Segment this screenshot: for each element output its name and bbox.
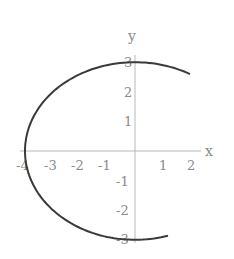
plot: x y -4 -3 -2 -1 1 2 3 2 1 -1 -2 -3 — [0, 0, 234, 259]
x-axis-label: x — [205, 143, 213, 159]
x-tick: 2 — [187, 158, 195, 173]
x-tick: -3 — [44, 158, 57, 173]
x-tick: 1 — [159, 158, 167, 173]
y-tick: -2 — [116, 203, 129, 218]
y-axis-label: y — [127, 28, 136, 44]
x-tick-labels: -4 -3 -2 -1 1 2 — [16, 158, 195, 173]
y-tick: 2 — [124, 85, 132, 100]
x-tick: -1 — [98, 158, 111, 173]
y-tick: -1 — [116, 174, 129, 189]
x-tick: -2 — [71, 158, 84, 173]
y-tick: 1 — [124, 114, 132, 129]
